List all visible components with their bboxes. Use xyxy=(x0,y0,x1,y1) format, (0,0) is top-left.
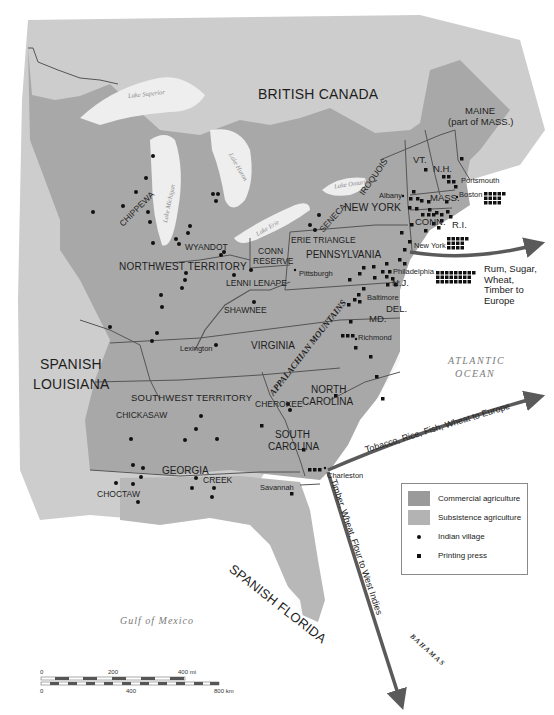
philadelphia-cluster xyxy=(436,271,476,284)
trade-label-line: Wheat, xyxy=(484,275,537,285)
label-conn-reserve-2: RESERVE xyxy=(253,257,293,266)
label-gulf-of-mexico: Gulf of Mexico xyxy=(120,616,194,626)
label-choctaw: CHOCTAW xyxy=(97,490,140,499)
printing-press-icon xyxy=(417,554,421,558)
label-connecticut: CONN. xyxy=(415,217,446,227)
label-boston: Boston xyxy=(459,191,482,199)
legend-label: Indian village xyxy=(438,532,485,541)
legend-label: Subsistence agriculture xyxy=(438,513,521,522)
legend-item-indian-village: Indian village xyxy=(402,532,485,541)
label-british-canada: BRITISH CANADA xyxy=(258,87,378,101)
label-rhode-island: R.I. xyxy=(452,220,467,230)
legend-item-commercial: Commercial agriculture xyxy=(402,491,520,506)
scale-km-400: 400 xyxy=(126,688,136,694)
label-creek: CREEK xyxy=(203,476,232,485)
label-new-york: New York xyxy=(414,242,446,250)
legend-item-printing-press: Printing press xyxy=(402,551,487,560)
scale-km-0: 0 xyxy=(40,688,43,694)
legend-label: Printing press xyxy=(438,551,487,560)
label-erie-triangle: ERIE TRIANGLE xyxy=(291,236,356,245)
label-pittsburgh: Pittsburgh xyxy=(299,270,333,278)
label-cherokee: CHEROKEE xyxy=(255,400,303,409)
label-georgia: GEORGIA xyxy=(162,466,209,476)
label-richmond: Richmond xyxy=(358,334,392,342)
label-pennsylvania: PENNSYLVANIA xyxy=(306,250,381,260)
label-new-york: NEW YORK xyxy=(344,202,401,213)
label-shawnee: SHAWNEE xyxy=(224,306,267,315)
label-spanish-louisiana-2: LOUISIANA xyxy=(33,377,110,391)
label-lenni-lenape: LENNI LENAPE xyxy=(226,279,287,288)
trade-label-line: Europe xyxy=(484,296,537,306)
subsistence-agriculture-swatch xyxy=(408,510,430,525)
label-atlantic: ATLANTIC xyxy=(448,356,505,366)
label-albany: Albany xyxy=(379,192,402,200)
label-south-carolina-2: CAROLINA xyxy=(268,442,319,452)
commercial-agriculture-swatch xyxy=(408,491,430,506)
label-maine: MAINE xyxy=(465,106,495,116)
scale-mi-0: 0 xyxy=(40,669,43,675)
label-northwest-territory: NORTHWEST TERRITORY xyxy=(119,262,247,272)
label-lexington: Lexington xyxy=(180,345,213,353)
legend-item-subsistence: Subsistence agriculture xyxy=(402,510,521,525)
label-ocean: OCEAN xyxy=(455,369,495,379)
label-north-carolina-2: CAROLINA xyxy=(302,397,353,407)
map-legend: Commercial agriculture Subsistence agric… xyxy=(401,483,528,575)
label-new-hampshire: N.H. xyxy=(433,164,452,174)
label-delaware: DEL. xyxy=(386,304,407,314)
label-savannah: Savannah xyxy=(260,484,294,492)
label-vermont: VT. xyxy=(413,155,427,165)
label-maine-part: (part of MASS.) xyxy=(448,117,513,127)
label-north-carolina-1: NORTH xyxy=(311,385,346,395)
label-conn-reserve-1: CONN xyxy=(258,247,283,256)
label-new-jersey: N.J. xyxy=(392,278,409,288)
label-spanish-louisiana-1: SPANISH xyxy=(40,357,102,371)
label-southwest-territory: SOUTHWEST TERRITORY xyxy=(131,393,252,403)
label-philadelphia: Philadelphia xyxy=(393,268,434,276)
scale-mi-200: 200 xyxy=(108,669,118,675)
label-south-carolina-1: SOUTH xyxy=(275,430,310,440)
label-wyandot: WYANDOT xyxy=(185,243,228,252)
trade-label-line: Rum, Sugar, xyxy=(484,264,537,274)
indian-village-icon xyxy=(417,535,421,539)
label-massachusetts: MASS. xyxy=(430,193,460,203)
trade-label-north: Rum, Sugar, Wheat, Timber to Europe xyxy=(484,264,537,305)
trade-label-line: Timber to xyxy=(484,285,537,295)
legend-label: Commercial agriculture xyxy=(438,494,520,503)
label-baltimore: Baltimore xyxy=(367,294,399,302)
label-maryland: MD. xyxy=(369,314,386,324)
scale-km-800: 800 km xyxy=(214,688,234,694)
label-portsmouth: Portsmouth xyxy=(461,177,499,185)
label-virginia: VIRGINIA xyxy=(251,341,295,351)
label-chickasaw: CHICKASAW xyxy=(116,411,167,420)
scale-mi-400: 400 mi xyxy=(178,669,196,675)
